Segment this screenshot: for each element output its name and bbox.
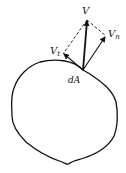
diagram-svg: V Vn Vt dA [0, 0, 126, 173]
vector-decomposition-diagram: V Vn Vt dA [0, 0, 126, 173]
label-tangential-component: Vt [50, 45, 60, 58]
dashed-line-v-to-vt [63, 20, 87, 54]
dashed-line-v-to-vn [87, 20, 106, 36]
label-velocity: V [82, 5, 91, 16]
control-surface-curve [12, 60, 118, 164]
normal-component-arrow [83, 37, 105, 70]
label-area-element: dA [68, 75, 81, 85]
label-normal-component: Vn [108, 28, 120, 41]
velocity-vector-arrow [83, 21, 87, 70]
